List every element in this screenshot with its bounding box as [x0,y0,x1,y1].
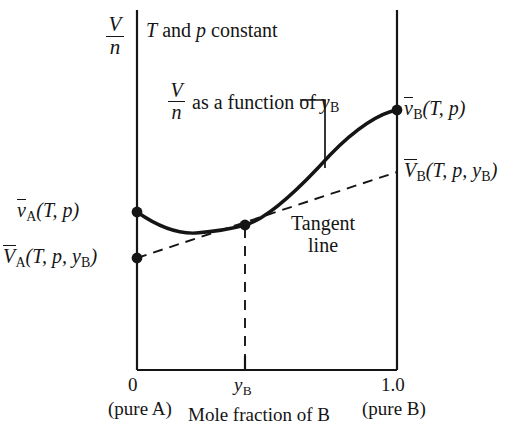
label-molar-volume-a-pure: vA(T, p) [17,198,79,224]
label-partial-molar-volume-b: VB(T, p, yB) [404,158,497,184]
conditions-annotation: T and p constant [146,19,278,41]
caption-numerator: V [168,80,185,102]
va-bar-variable: v [17,198,26,221]
y-axis-label: V n [104,14,126,58]
y-axis-numerator: V [106,14,124,37]
caption-text: as a function of [187,91,321,113]
label-molar-volume-b-pure: vB(T, p) [404,96,465,122]
label-partial-molar-volume-a: VA(T, p, yB) [3,244,97,270]
tangent-word-2: line [308,234,338,256]
vb-bar-variable: v [404,96,413,119]
caption-denominator: n [168,102,185,123]
xtick-yb-subscript: B [243,383,252,398]
Va-argument-var: y [72,245,81,267]
tangent-line-annotation: Tangent line [291,212,355,257]
Va-subscript: A [15,255,25,270]
Va-bar-variable: V [3,244,15,267]
molar-volume-curve [137,110,397,233]
condition-var-temperature: T [146,19,157,41]
Vb-arguments-close: ) [491,159,498,181]
Vb-bar-variable: V [404,158,416,181]
condition-conjunction: and [157,19,196,41]
partial-molar-volume-figure: V n T and p constant V n as a function o… [0,0,522,442]
point-tangency [240,220,251,231]
caption-var-subscript: B [330,100,339,115]
xtick-label-yb: yB [234,374,252,399]
x-axis-title: Mole fraction of B [188,404,330,425]
Va-arguments-close: ) [90,245,97,267]
va-arguments: (T, p) [36,199,79,221]
xtick-label-0: 0 [128,374,138,395]
Va-arguments-open: (T, p, [26,245,72,267]
condition-suffix: constant [206,19,278,41]
Vb-subscript: B [416,169,425,184]
Vb-arguments-open: (T, p, [426,159,472,181]
Vb-argument-var: y [472,159,481,181]
vb-subscript: B [413,107,422,122]
vb-arguments: (T, p) [423,97,466,119]
point-va-pure [132,207,143,218]
xtick-sublabel-pure-a: (pure A) [108,398,172,419]
y-axis-denominator: n [106,37,124,59]
condition-var-pressure: p [196,19,206,41]
xtick-sublabel-pure-b: (pure B) [362,398,426,419]
tangent-word-1: Tangent [291,212,355,234]
xtick-label-1: 1.0 [381,374,405,395]
caption-var: y [321,91,330,113]
xtick-yb-var: y [234,374,242,395]
Vb-argument-var-subscript: B [481,169,490,184]
curve-caption: V n as a function of yB [166,80,339,122]
point-Va-partial [132,253,143,264]
point-vb-pure [392,105,403,116]
va-subscript: A [26,209,36,224]
